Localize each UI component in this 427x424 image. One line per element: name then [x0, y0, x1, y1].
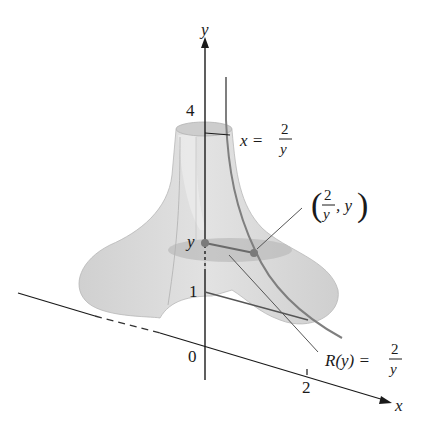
svg-text:): )	[357, 186, 368, 224]
x-axis-arrow-icon	[379, 396, 392, 404]
svg-text:2: 2	[281, 121, 289, 137]
curve-equation-label: x = 2 y	[239, 121, 292, 157]
center-point	[201, 239, 209, 247]
y-tick-y-label: y	[185, 232, 195, 251]
y-tick-4-label: 4	[186, 101, 195, 120]
svg-text:y: y	[321, 206, 330, 222]
origin-label: 0	[188, 347, 197, 366]
radius-equation-label: R(y) = 2 y	[324, 341, 402, 377]
x-axis-label: x	[394, 396, 403, 415]
svg-text:x =: x =	[239, 131, 263, 150]
solid-of-revolution-diagram: y x 4 1 y 0 2 x = 2 y ( 2 y , y ) R(y) =…	[0, 0, 427, 424]
x-tick-2-label: 2	[302, 378, 311, 397]
y-tick-1-label: 1	[189, 282, 198, 301]
svg-text:(: (	[311, 186, 322, 224]
svg-text:R(y) =: R(y) =	[324, 351, 370, 370]
y-axis-label: y	[199, 20, 209, 39]
svg-text:, y: , y	[336, 196, 353, 215]
svg-text:y: y	[278, 141, 287, 157]
svg-text:2: 2	[391, 341, 399, 357]
svg-text:y: y	[388, 361, 397, 377]
point-coordinate-label: ( 2 y , y )	[311, 186, 368, 224]
curve-point	[250, 249, 258, 257]
svg-text:2: 2	[324, 187, 332, 203]
x-axis-hidden	[95, 316, 160, 333]
